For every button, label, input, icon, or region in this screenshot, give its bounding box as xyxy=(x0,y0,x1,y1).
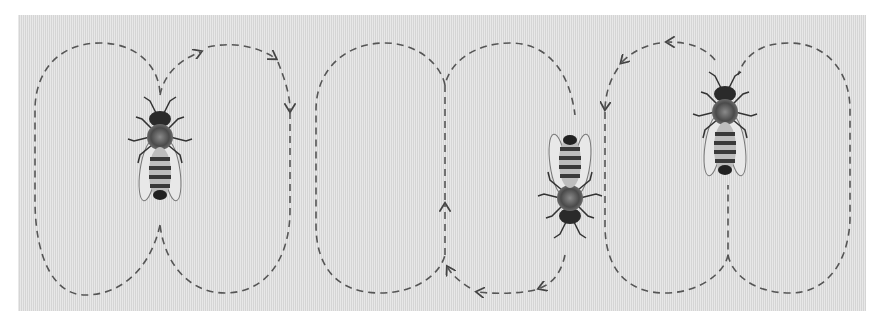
dance-diagram xyxy=(0,0,879,322)
bee-right xyxy=(693,72,757,177)
bee-middle xyxy=(538,133,602,238)
bee-left xyxy=(128,97,192,202)
